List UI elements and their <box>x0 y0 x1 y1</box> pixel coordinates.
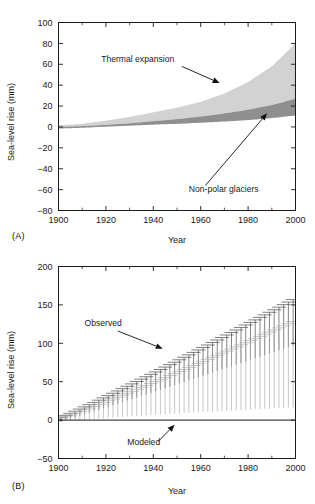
panel-a-y-axis-title-text: Sea-level rise (mm) <box>6 83 16 161</box>
y-tick-label: 200 <box>37 262 52 272</box>
x-tick-label: 1980 <box>238 215 258 225</box>
panel-a-thermal-expansion-glaciers: Sea-level rise (mm) 19001920194019601980… <box>0 0 315 250</box>
panel-a-x-axis-title: Year <box>168 235 186 245</box>
panel-b-y-axis-title-text: Sea-level rise (mm) <box>6 331 16 409</box>
y-tick-label: −80 <box>37 206 52 216</box>
panel-a-series-group <box>59 43 296 128</box>
x-tick-label: 1900 <box>48 463 68 473</box>
x-tick-label: 2000 <box>285 215 305 225</box>
x-tick-label: 1980 <box>238 463 258 473</box>
panel-a-y-axis-title: Sea-level rise (mm) <box>6 83 16 161</box>
x-tick-label: 1900 <box>48 215 68 225</box>
annotation-arrow <box>212 78 220 83</box>
y-tick-label: 100 <box>37 339 52 349</box>
panel-b-observed-modeled: Sea-level rise (mm) 19001920194019601980… <box>0 250 315 504</box>
annotation-arrow <box>155 343 163 348</box>
y-tick-label: 150 <box>37 300 52 310</box>
y-tick-label: 100 <box>37 18 52 28</box>
y-tick-label: −60 <box>37 185 52 195</box>
x-tick-label: 2000 <box>285 463 305 473</box>
panel-a-plot: Sea-level rise (mm) 19001920194019601980… <box>0 0 315 250</box>
x-tick-label: 1940 <box>143 463 163 473</box>
x-tick-label: 1960 <box>191 215 211 225</box>
y-tick-label: −20 <box>37 143 52 153</box>
panel-b-plot: Sea-level rise (mm) 19001920194019601980… <box>0 250 315 504</box>
panel-b-annotations: ObservedModeled <box>85 318 175 447</box>
x-tick-label: 1940 <box>143 215 163 225</box>
annotation-label: Modeled <box>127 437 160 447</box>
panel-b-label: (B) <box>12 481 25 491</box>
y-tick-label: 50 <box>42 377 52 387</box>
y-tick-label: 0 <box>47 122 52 132</box>
y-tick-label: −40 <box>37 164 52 174</box>
figure-sea-level-rise: Sea-level rise (mm) 19001920194019601980… <box>0 0 315 504</box>
x-tick-label: 1920 <box>96 215 116 225</box>
annotation-label: Observed <box>85 318 122 328</box>
x-tick-label: 1920 <box>96 463 116 473</box>
panel-a-label: (A) <box>12 231 25 241</box>
panel-b-x-axis-title: Year <box>168 486 186 496</box>
y-tick-label: −50 <box>37 454 52 464</box>
y-tick-label: 60 <box>42 59 52 69</box>
x-tick-label: 1960 <box>191 463 211 473</box>
panel-b-y-axis-title: Sea-level rise (mm) <box>6 331 16 409</box>
y-tick-label: 20 <box>42 101 52 111</box>
annotation-label: Thermal expansion <box>101 54 174 64</box>
annotation-label: Non-polar glaciers <box>189 184 259 194</box>
y-tick-label: 40 <box>42 80 52 90</box>
y-tick-label: 0 <box>47 415 52 425</box>
y-tick-label: 80 <box>42 39 52 49</box>
